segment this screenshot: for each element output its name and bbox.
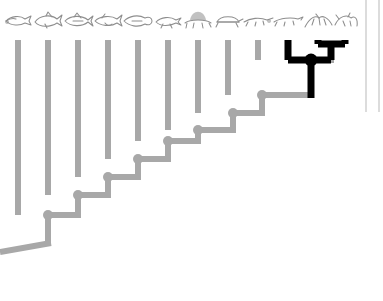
silhouette-lizard (244, 18, 273, 26)
silhouette-stroke (35, 15, 62, 26)
branches (0, 40, 345, 252)
silhouette-cartilaginous-fish (35, 12, 62, 28)
tree-node-n5[interactable] (163, 136, 173, 146)
silhouette-crocodilian (274, 17, 303, 26)
silhouette-fill (190, 12, 206, 20)
silhouette-stroke (95, 15, 122, 26)
silhouette-stroke (274, 17, 303, 22)
silhouette-stroke (156, 18, 181, 26)
silhouette-jawless-fish (5, 16, 31, 25)
silhouette-pterosaur (305, 14, 332, 27)
silhouette-stroke (216, 19, 243, 27)
tree-node-n2[interactable] (73, 190, 83, 200)
silhouette-stroke (217, 17, 239, 22)
silhouette-lungfish (124, 16, 152, 26)
tree-node-n7[interactable] (228, 108, 238, 118)
silhouette-stroke (185, 20, 211, 23)
tree-node-n1[interactable] (43, 210, 53, 220)
silhouette-ray-finned-fish (65, 13, 93, 26)
silhouette-amphibian (156, 18, 181, 28)
tree-node-n4[interactable] (133, 154, 143, 164)
silhouette-lobe-finned-fish (95, 14, 122, 26)
silhouette-turtle (216, 17, 243, 27)
tree-node-n9[interactable] (305, 54, 318, 67)
silhouette-stroke (186, 23, 211, 28)
figure-canvas (0, 0, 383, 301)
silhouette-bird (335, 13, 357, 26)
silhouette-row (5, 12, 357, 28)
tree-node-n8[interactable] (257, 90, 267, 100)
silhouette-stroke (246, 21, 264, 26)
silhouette-stroke (74, 13, 81, 18)
silhouette-stroke (305, 17, 332, 27)
tree-node-n3[interactable] (103, 172, 113, 182)
silhouette-stroke (6, 16, 31, 25)
silhouette-stroke (343, 21, 351, 26)
silhouette-stroke (312, 18, 326, 25)
cladogram-svg (0, 0, 383, 301)
silhouette-fill (5, 20, 9, 24)
panel-rules (366, 0, 379, 112)
silhouette-stroke (275, 21, 294, 26)
root-tail (0, 243, 51, 252)
tree-node-n6[interactable] (193, 125, 203, 135)
silhouette-sail-backed-synapsid (185, 12, 211, 28)
silhouette-fill (267, 19, 271, 23)
